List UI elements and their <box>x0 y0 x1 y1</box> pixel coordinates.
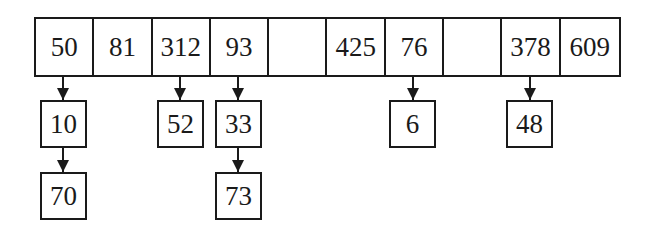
chain-node-slot0-0: 10 <box>40 100 87 148</box>
chain-node-slot2-0: 52 <box>157 100 204 148</box>
chain-node-slot3-1: 73 <box>215 172 262 220</box>
chain-node-slot3-0: 33 <box>215 100 262 148</box>
chain-node-slot0-1: 70 <box>40 172 87 220</box>
chain-node-slot8-0: 48 <box>506 100 553 148</box>
chain-node-slot6-0: 6 <box>389 100 436 148</box>
